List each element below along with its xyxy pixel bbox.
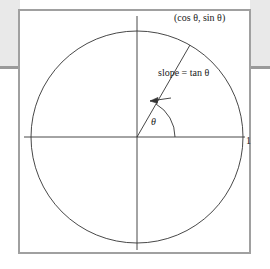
slope-label: slope = tan θ xyxy=(158,68,209,78)
figure-frame xyxy=(18,9,251,254)
page-margin-shade-right xyxy=(250,0,270,66)
page-margin-rule-right xyxy=(250,66,270,69)
page-margin-shade-left xyxy=(0,0,20,66)
figure-page: (cos θ, sin θ) slope = tan θ θ 1 xyxy=(0,0,270,269)
radius-tick-label: 1 xyxy=(246,136,251,146)
page-margin-rule-left xyxy=(0,66,20,69)
point-coordinates-label: (cos θ, sin θ) xyxy=(174,13,225,23)
theta-angle-label: θ xyxy=(151,117,156,127)
